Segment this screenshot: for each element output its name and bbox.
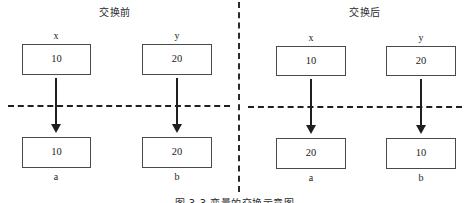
down-arrow-shaft-y-after [420,79,422,126]
down-arrow-shaft-y-before [176,78,178,125]
down-arrow-shaft-x-after [310,79,312,126]
var-box-value: 10 [51,147,62,158]
box-label-a-before-bottom: a [36,171,76,182]
var-box-value: 20 [172,147,183,158]
down-arrow-head-y-after [416,125,426,134]
box-label-x-after-top: x [291,32,331,43]
swap-diagram-figure: 交换前 x 10 y 20 10 a 20 b 交换后 x 10 y 20 [0,0,469,203]
var-box-value: 20 [306,148,317,159]
var-box-a-before: 10 [22,137,91,168]
figure-caption: 图 3-3 变量的交换示意图 [0,195,469,203]
var-box-b-before: 20 [142,137,212,168]
var-box-a-after: 20 [276,138,346,169]
down-arrow-head-y-before [172,124,182,133]
box-label-b-before-bottom: b [157,171,197,182]
panel-title-before: 交换前 [85,4,145,19]
var-box-value: 10 [51,54,62,65]
down-arrow-head-x-before [51,124,61,133]
horizontal-dashed-separator-after [248,106,462,108]
var-box-value: 20 [172,54,183,65]
down-arrow-shaft-x-before [55,78,57,125]
var-box-x-before: 10 [22,44,91,75]
horizontal-dashed-separator-before [8,105,230,107]
box-label-y-after-top: y [401,32,441,43]
var-box-y-before: 20 [142,44,212,75]
box-label-x-before-top: x [36,30,76,41]
var-box-y-after: 20 [386,46,456,76]
var-box-value: 20 [416,56,427,67]
var-box-b-after: 10 [386,138,456,169]
panel-title-after: 交换后 [332,4,398,19]
var-box-x-after: 10 [276,46,346,76]
vertical-dash-dot-divider-icon [238,2,240,192]
down-arrow-head-x-after [306,125,316,134]
var-box-value: 10 [306,56,317,67]
box-label-y-before-top: y [157,30,197,41]
box-label-a-after-bottom: a [291,172,331,183]
var-box-value: 10 [416,148,427,159]
box-label-b-after-bottom: b [401,172,441,183]
